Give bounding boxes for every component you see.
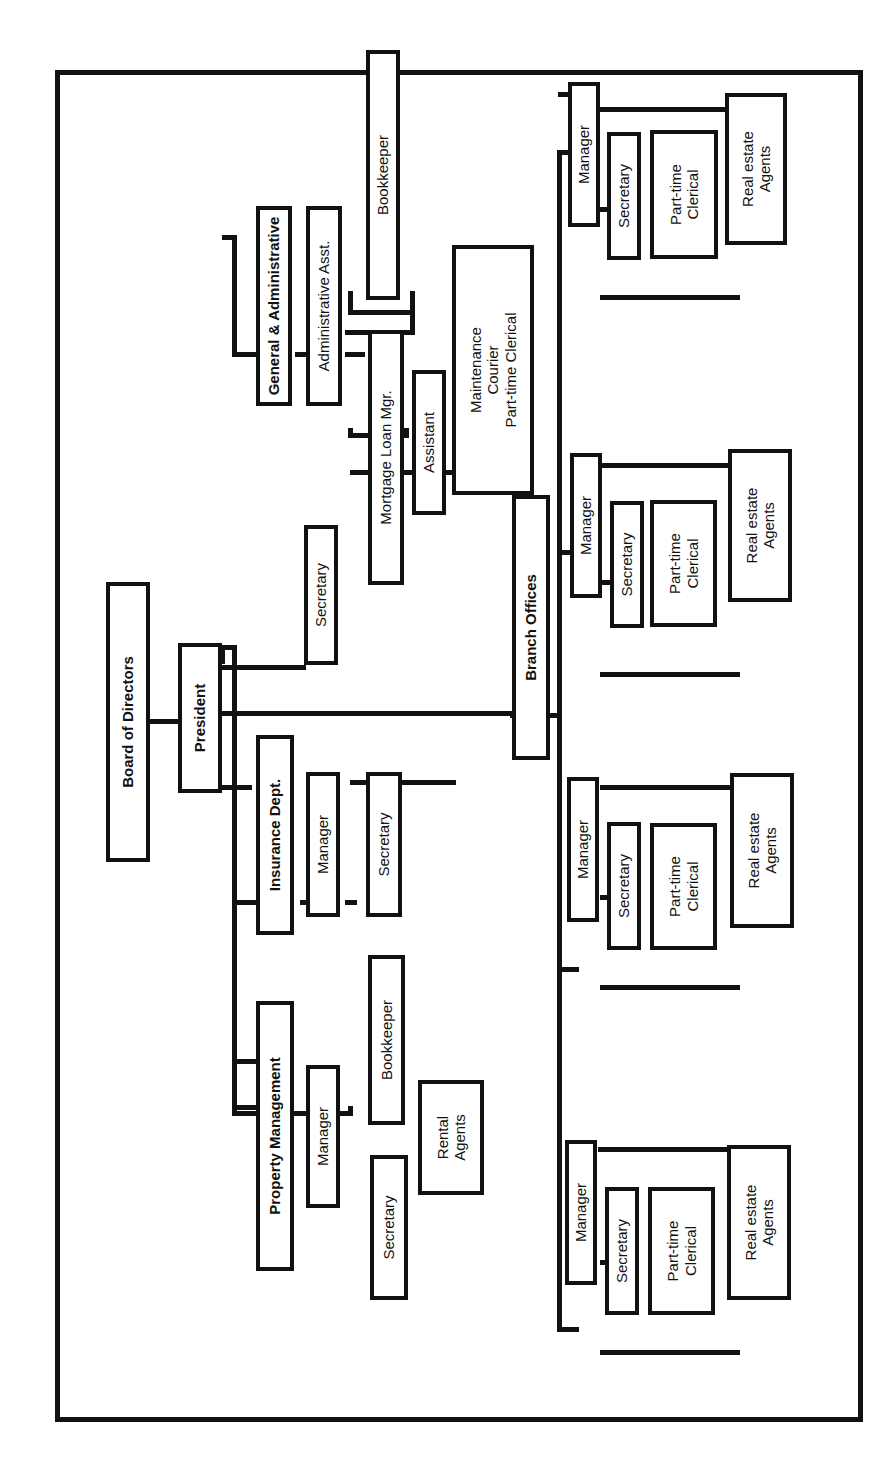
branch-3-agents-box: Real estate Agents bbox=[730, 773, 794, 928]
connector bbox=[348, 428, 353, 438]
branch-3-secretary-box: Secretary bbox=[607, 822, 641, 950]
insurance-manager-box: Manager bbox=[306, 772, 340, 917]
president-box: President bbox=[178, 643, 222, 793]
connector bbox=[600, 985, 740, 990]
connector bbox=[557, 967, 579, 972]
connector bbox=[345, 352, 365, 357]
branch-1-agents-box: Real estate Agents bbox=[725, 93, 787, 245]
branch-2-clerical-box: Part-time Clerical bbox=[650, 500, 717, 627]
connector bbox=[557, 150, 562, 1332]
property-bookkeeper-box: Bookkeeper bbox=[368, 955, 405, 1125]
connector bbox=[600, 463, 728, 468]
branch-4-secretary-box: Secretary bbox=[605, 1187, 639, 1315]
branch-1-manager-box: Manager bbox=[568, 82, 600, 227]
board-of-directors-box: Board of Directors bbox=[106, 582, 150, 862]
branch-2-manager-box: Manager bbox=[570, 453, 602, 598]
connector bbox=[345, 900, 357, 905]
connector bbox=[600, 295, 740, 300]
branch-4-agents-box: Real estate Agents bbox=[727, 1145, 791, 1300]
insurance-dept-box: Insurance Dept. bbox=[256, 735, 294, 935]
branch-1-clerical-box: Part-time Clerical bbox=[650, 130, 718, 259]
admin-asst-box: Administrative Asst. bbox=[306, 206, 342, 406]
connector bbox=[598, 1147, 728, 1152]
connector bbox=[600, 107, 725, 112]
connector bbox=[600, 1350, 740, 1355]
branch-offices-box: Branch Offices bbox=[512, 495, 550, 760]
maintenance-courier-clerical-box: Maintenance Courier Part-time Clerical bbox=[452, 245, 534, 495]
assistant-box: Assistant bbox=[412, 370, 446, 515]
mortgage-loan-mgr-box: Mortgage Loan Mgr. bbox=[368, 330, 404, 585]
org-chart: Board of Directors President Secretary G… bbox=[0, 0, 882, 1480]
rental-agents-box: Rental Agents bbox=[418, 1080, 484, 1195]
branch-4-clerical-box: Part-time Clerical bbox=[648, 1187, 715, 1315]
branch-4-manager-box: Manager bbox=[565, 1140, 597, 1285]
connector bbox=[557, 1327, 579, 1332]
connector bbox=[148, 719, 180, 724]
connector bbox=[232, 1060, 237, 1116]
connector bbox=[220, 785, 240, 790]
bookkeeper-box: Bookkeeper bbox=[366, 50, 400, 300]
connector bbox=[232, 235, 237, 355]
connector bbox=[410, 311, 415, 335]
connector bbox=[220, 711, 512, 716]
connector bbox=[600, 785, 730, 790]
branch-2-secretary-box: Secretary bbox=[610, 501, 644, 628]
connector bbox=[220, 665, 306, 670]
connector bbox=[348, 1106, 353, 1116]
branch-2-agents-box: Real estate Agents bbox=[728, 449, 792, 602]
connector bbox=[348, 291, 353, 315]
connector bbox=[348, 310, 414, 315]
branch-3-manager-box: Manager bbox=[567, 777, 599, 922]
branch-3-clerical-box: Part-time Clerical bbox=[650, 823, 717, 950]
branch-1-secretary-box: Secretary bbox=[607, 132, 641, 260]
property-manager-box: Manager bbox=[306, 1065, 340, 1208]
property-management-box: Property Management bbox=[256, 1001, 294, 1271]
insurance-secretary-box: Secretary bbox=[366, 772, 402, 917]
connector bbox=[240, 785, 252, 790]
president-secretary-box: Secretary bbox=[304, 525, 338, 665]
connector bbox=[600, 672, 740, 677]
property-secretary-box: Secretary bbox=[370, 1155, 408, 1300]
general-admin-box: General & Administrative bbox=[256, 206, 292, 406]
connector bbox=[232, 645, 237, 1064]
connector bbox=[404, 428, 409, 438]
